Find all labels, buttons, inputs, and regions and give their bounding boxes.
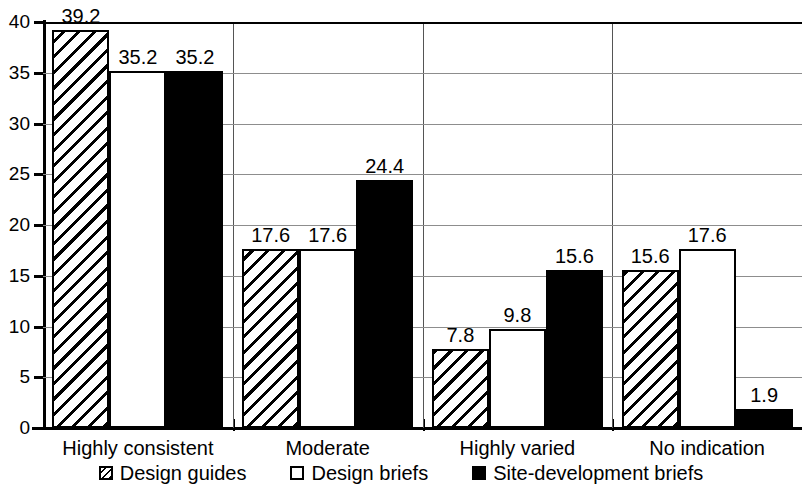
y-axis-tick-label: 30	[0, 114, 30, 133]
legend-label: Design guides	[120, 462, 247, 484]
bar-value-label: 35.2	[160, 47, 229, 67]
category-label: No indication	[612, 437, 802, 459]
legend-label: Site-development briefs	[493, 462, 703, 484]
legend-swatch-icon	[290, 466, 304, 480]
bar-value-label: 1.9	[730, 385, 799, 405]
bar	[299, 249, 356, 428]
legend-item: Site-development briefs	[472, 462, 703, 484]
legend: Design guidesDesign briefsSite-developme…	[0, 462, 802, 484]
bar-value-label: 24.4	[350, 156, 419, 176]
category-label: Highly consistent	[43, 437, 233, 459]
bar	[736, 409, 793, 428]
bar	[166, 71, 223, 428]
legend-swatch-icon	[99, 466, 113, 480]
y-axis-tick-label: 15	[0, 266, 30, 285]
bar	[52, 30, 109, 428]
gridline	[43, 22, 802, 24]
bar	[109, 71, 166, 428]
category-label: Moderate	[233, 437, 423, 459]
bar	[546, 270, 603, 428]
legend-item: Design briefs	[290, 462, 428, 484]
y-axis-tick-label: 40	[0, 12, 30, 31]
legend-label: Design briefs	[311, 462, 428, 484]
bar	[356, 180, 413, 428]
y-axis-tick-label: 35	[0, 63, 30, 82]
y-axis-tick-label: 20	[0, 215, 30, 234]
bar	[489, 329, 546, 428]
legend-item: Design guides	[99, 462, 247, 484]
category-label: Highly varied	[423, 437, 613, 459]
y-axis-tick-label: 25	[0, 164, 30, 183]
bar	[622, 270, 679, 428]
y-axis-tick-label: 0	[0, 418, 30, 437]
bar-value-label: 15.6	[540, 246, 609, 266]
bar-value-label: 7.8	[426, 325, 495, 345]
legend-swatch-icon	[472, 466, 486, 480]
bar-value-label: 17.6	[673, 225, 742, 245]
bar-value-label: 17.6	[293, 225, 362, 245]
bar-value-label: 39.2	[46, 6, 115, 26]
bar-chart: 4035302520151050 39.235.235.217.617.624.…	[0, 0, 802, 489]
y-axis-tick-label: 5	[0, 367, 30, 386]
bar	[679, 249, 736, 428]
bar	[242, 249, 299, 428]
bar-value-label: 15.6	[616, 246, 685, 266]
y-axis-tick-label: 10	[0, 317, 30, 336]
bar	[432, 349, 489, 428]
bar-value-label: 9.8	[483, 305, 552, 325]
